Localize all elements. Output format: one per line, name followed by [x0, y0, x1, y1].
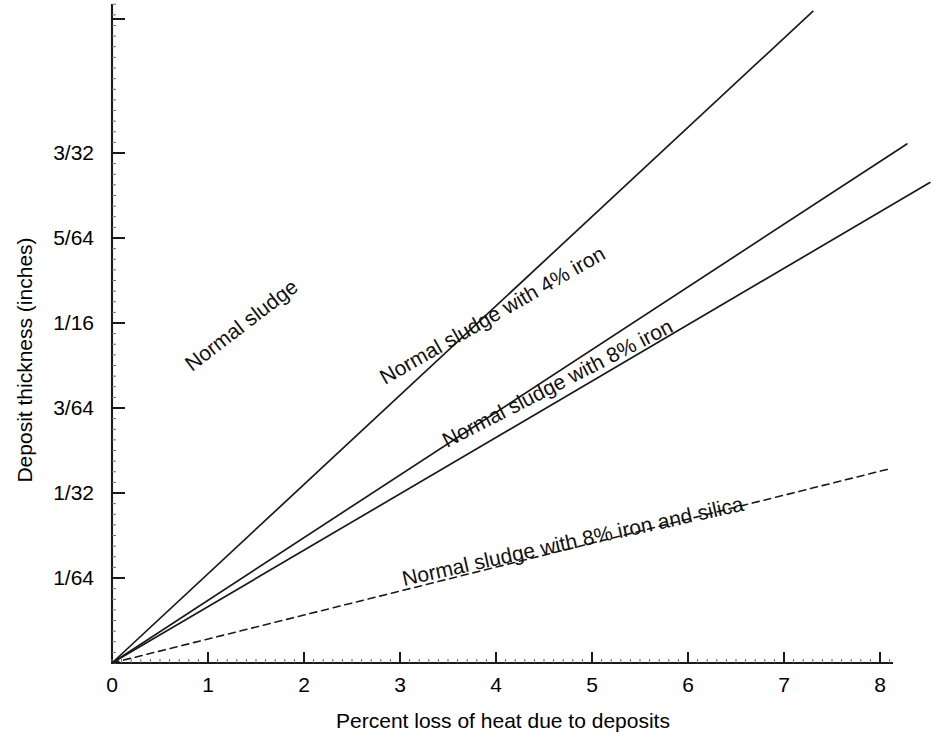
y-tick-label: 5/64 [53, 226, 94, 249]
series-line-2 [112, 183, 930, 663]
y-tick-label: 3/64 [53, 396, 94, 419]
chart-figure: 012345678 1/641/323/641/165/643/32 Norma… [0, 0, 942, 742]
y-tick-label: 1/16 [53, 311, 94, 334]
x-tick-label: 0 [106, 673, 118, 696]
series-label-normal-sludge: Normal sludge [180, 274, 301, 375]
x-axis-title: Percent loss of heat due to deposits [336, 709, 670, 732]
x-tick-label: 7 [778, 673, 790, 696]
y-tick-labels: 1/641/323/641/165/643/32 [53, 141, 94, 589]
x-tick-labels: 012345678 [106, 673, 886, 696]
x-tick-label: 6 [682, 673, 694, 696]
y-tick-label: 1/32 [53, 481, 94, 504]
x-tick-label: 8 [874, 673, 886, 696]
x-tick-label: 3 [394, 673, 406, 696]
x-tick-label: 1 [202, 673, 214, 696]
series-label-8-percent-iron-silica: Normal sludge with 8% iron and silica [400, 492, 746, 590]
x-tick-label: 5 [586, 673, 598, 696]
series-labels-group: Normal sludge Normal sludge with 4% iron… [180, 241, 745, 589]
x-tick-label: 4 [490, 673, 502, 696]
y-tick-label: 3/32 [53, 141, 94, 164]
line-chart-canvas: 012345678 1/641/323/641/165/643/32 Norma… [0, 0, 942, 742]
y-tick-label: 1/64 [53, 566, 94, 589]
x-tick-label: 2 [298, 673, 310, 696]
y-axis-title: Deposit thickness (inches) [13, 237, 36, 482]
